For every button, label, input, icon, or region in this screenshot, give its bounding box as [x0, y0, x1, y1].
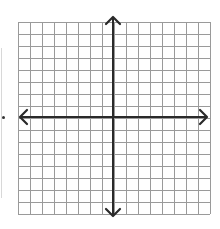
grid-svg: [0, 0, 220, 229]
coordinate-plane: [0, 0, 220, 229]
